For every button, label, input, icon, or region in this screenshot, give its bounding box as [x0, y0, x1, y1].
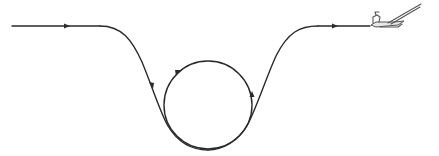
loop-top-arrow-icon — [175, 70, 181, 76]
loop-flight-diagram — [0, 0, 439, 156]
entry-arrow-icon — [64, 24, 70, 29]
climb-path — [208, 26, 318, 150]
dive-path — [100, 26, 208, 150]
glider-icon — [371, 4, 421, 27]
exit-arrow-icon — [332, 24, 338, 29]
